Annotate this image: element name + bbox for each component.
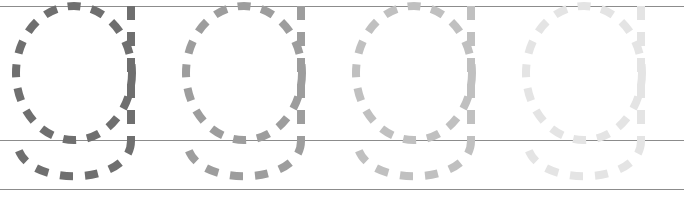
letter-bowl-oval: [526, 6, 642, 140]
letter-g-3: [356, 6, 472, 176]
letter-descender-hook: [187, 141, 301, 176]
letter-descender-hook: [357, 141, 471, 176]
letter-bowl-oval: [186, 6, 302, 140]
letter-trace-group: [0, 0, 684, 201]
letter-bowl-oval: [356, 6, 472, 140]
letter-descender-hook: [17, 141, 131, 176]
letter-g-2: [186, 6, 302, 176]
letter-bowl-oval: [16, 6, 132, 140]
handwriting-worksheet: [0, 0, 684, 201]
letter-g-1: [16, 6, 132, 176]
letter-descender-hook: [527, 141, 641, 176]
letter-g-4: [526, 6, 642, 176]
